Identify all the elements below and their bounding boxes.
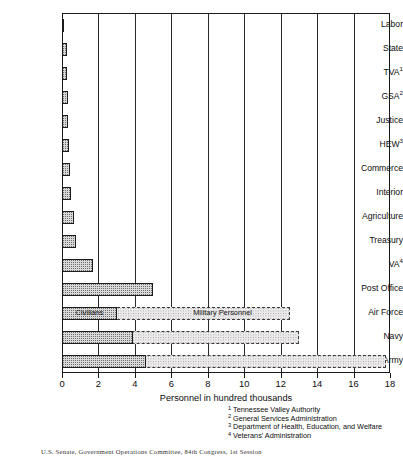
bar-civilian-labor: [62, 19, 64, 32]
bar-civilian-gsa: [62, 91, 68, 104]
footnote-marker-3: 3: [400, 137, 403, 144]
bar-civilian-state: [62, 43, 67, 56]
x-tick-label-2: 2: [86, 379, 110, 389]
bar-civilian-navy: [62, 331, 133, 344]
footnote-text-4: Veterans' Administration: [233, 431, 311, 440]
footnote-marker-4: 4: [400, 257, 403, 264]
bar-civilian-interior: [62, 187, 71, 200]
category-label-hew: HEW3: [345, 140, 403, 149]
footnote-number-3: 3: [228, 421, 231, 430]
footnote-4: 4Veterans' Administration: [228, 432, 382, 441]
x-tick-label-4: 4: [123, 379, 147, 389]
x-tick-label-10: 10: [232, 379, 256, 389]
source-citation: U.S. Senate, Government Operations Commi…: [41, 448, 262, 456]
x-tick-label-12: 12: [269, 379, 293, 389]
footnote-marker-2: 2: [400, 89, 403, 96]
category-label-interior: Interior: [345, 188, 403, 197]
category-label-labor: Labor: [345, 20, 403, 29]
x-tick-label-0: 0: [50, 379, 74, 389]
bar-civilian-tva: [62, 67, 67, 80]
category-label-post-office: Post Office: [345, 284, 403, 293]
category-label-justice: Justice: [345, 116, 403, 125]
bar-civilian-hew: [62, 139, 69, 152]
bar-civilian-army: [62, 355, 146, 368]
x-tick-label-6: 6: [159, 379, 183, 389]
category-label-navy: Navy: [345, 332, 403, 341]
category-label-state: State: [345, 44, 403, 53]
x-axis-title: Personnel in hundred thousands: [62, 393, 390, 404]
x-tick-label-14: 14: [305, 379, 329, 389]
category-label-treasury: Treasury: [345, 236, 403, 245]
bar-civilian-agriculture: [62, 211, 74, 224]
footnote-marker-1: 1: [400, 65, 403, 72]
bar-civilian-justice: [62, 115, 68, 128]
category-label-gsa: GSA2: [345, 92, 403, 101]
bar-civilian-treasury: [62, 235, 76, 248]
category-label-air-force: Air Force: [345, 308, 403, 317]
footnote-number-1: 1: [228, 404, 231, 413]
figure-root: LaborStateTVA1GSA2JusticeHEW3CommerceInt…: [0, 0, 403, 465]
gridline-14: [317, 14, 318, 372]
footnote-number-2: 2: [228, 412, 231, 421]
bar-civilian-post-office: [62, 283, 153, 296]
category-label-agriculture: Agriculture: [345, 212, 403, 221]
x-tick-label-18: 18: [378, 379, 402, 389]
footnote-list: 1Tennessee Valley Authority2General Serv…: [228, 406, 382, 440]
category-label-tva: TVA1: [345, 68, 403, 77]
x-tick-label-16: 16: [342, 379, 366, 389]
category-label-commerce: Commerce: [345, 164, 403, 173]
bar-civilian-commerce: [62, 163, 70, 176]
x-tick-label-8: 8: [196, 379, 220, 389]
footnote-number-4: 4: [228, 430, 231, 439]
bar-legend-military-personnel: Military Personnel: [193, 309, 252, 317]
category-label-va: VA4: [345, 260, 403, 269]
bar-legend-civilians: Civilians: [69, 309, 109, 317]
bar-civilian-va: [62, 259, 93, 272]
